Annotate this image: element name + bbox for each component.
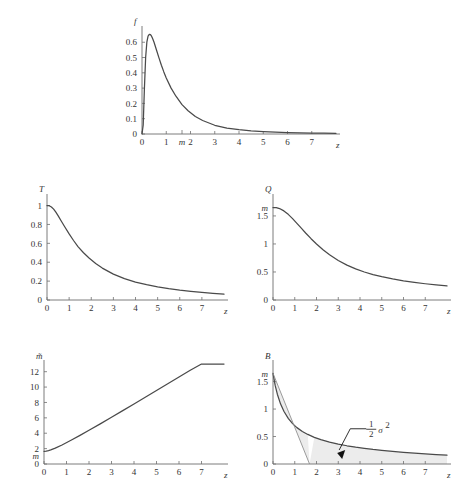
svg-text:6: 6	[401, 303, 406, 313]
axis-label-y-T: T	[39, 184, 45, 194]
tick-labels-f: 0123456700.10.20.30.40.50.6	[126, 37, 315, 147]
svg-text:0.6: 0.6	[31, 239, 43, 249]
curve-f	[142, 34, 336, 134]
svg-text:0.5: 0.5	[126, 53, 138, 63]
svg-text:4: 4	[358, 467, 363, 477]
svg-text:2: 2	[314, 303, 319, 313]
axis-label-x-B: z	[446, 470, 451, 480]
svg-text:5: 5	[154, 467, 159, 477]
axis-label-x-f: z	[335, 140, 340, 150]
svg-text:7: 7	[199, 467, 204, 477]
svg-text:0: 0	[264, 459, 269, 469]
svg-text:0.1: 0.1	[126, 114, 137, 124]
chart-panel-f: 0123456700.10.20.30.40.50.6 f z m	[108, 12, 348, 164]
tick-labels-T: 0123456700.20.40.60.81	[31, 201, 205, 313]
svg-text:8: 8	[35, 398, 40, 408]
svg-text:0.3: 0.3	[126, 83, 138, 93]
axis-label-y-f: f	[134, 16, 138, 26]
svg-text:0: 0	[271, 303, 276, 313]
ticks-Q	[273, 216, 425, 300]
svg-text:0.5: 0.5	[257, 267, 269, 277]
svg-text:2: 2	[369, 429, 374, 439]
svg-text:0.2: 0.2	[126, 99, 137, 109]
shaded-region-B	[273, 373, 447, 464]
svg-text:0: 0	[45, 303, 50, 313]
svg-text:6: 6	[401, 467, 406, 477]
svg-text:1: 1	[38, 201, 43, 211]
svg-text:2: 2	[87, 467, 92, 477]
svg-text:3: 3	[336, 303, 341, 313]
svg-text:1: 1	[67, 303, 72, 313]
annotation-m-B: m	[262, 369, 269, 379]
chart-Q-svg: 0123456700.511.5 Q z m	[243, 180, 458, 330]
svg-text:1: 1	[264, 404, 269, 414]
svg-text:1: 1	[293, 303, 298, 313]
figure-page: 0123456700.10.20.30.40.50.6 f z m 012345…	[0, 0, 459, 498]
svg-text:4: 4	[358, 303, 363, 313]
svg-text:1: 1	[64, 467, 69, 477]
svg-text:3: 3	[213, 137, 218, 147]
svg-text:4: 4	[35, 428, 40, 438]
svg-text:2: 2	[89, 303, 94, 313]
axis-label-x-Q: z	[446, 306, 451, 316]
svg-text:12: 12	[30, 367, 39, 377]
chart-mbar-svg: 01234567024681012 m̃ z m	[10, 348, 235, 494]
axis-label-y-mbar: m̃	[36, 351, 43, 361]
svg-text:0.4: 0.4	[126, 68, 138, 78]
svg-text:5: 5	[155, 303, 160, 313]
svg-text:7: 7	[423, 467, 428, 477]
svg-text:1: 1	[293, 467, 298, 477]
curve-T	[47, 206, 224, 295]
axis-label-x-mbar: z	[223, 470, 228, 480]
svg-text:2: 2	[188, 137, 193, 147]
svg-text:0.2: 0.2	[31, 276, 42, 286]
svg-text:0: 0	[271, 467, 276, 477]
axis-label-y-B: B	[265, 351, 271, 361]
svg-text:2: 2	[385, 420, 390, 430]
curve-mbar	[44, 364, 224, 451]
axis-label-x-T: z	[223, 306, 228, 316]
chart-panel-B: 0123456700.511.5 12σ2 B z m	[243, 348, 458, 494]
chart-panel-Q: 0123456700.511.5 Q z m	[243, 180, 458, 330]
curve-Q	[273, 208, 447, 286]
svg-text:0: 0	[38, 295, 43, 305]
svg-text:4: 4	[132, 467, 137, 477]
svg-text:σ: σ	[378, 425, 383, 435]
annotation-m-mbar: m	[33, 451, 40, 461]
svg-text:5: 5	[261, 137, 266, 147]
svg-text:0.5: 0.5	[257, 432, 269, 442]
chart-B-svg: 0123456700.511.5 12σ2 B z m	[243, 348, 458, 494]
svg-text:0: 0	[133, 129, 138, 139]
svg-text:5: 5	[380, 467, 385, 477]
annotation-m-f: m	[179, 137, 186, 147]
axes-mbar	[44, 360, 228, 464]
svg-text:4: 4	[237, 137, 242, 147]
svg-text:5: 5	[380, 303, 385, 313]
svg-text:6: 6	[285, 137, 290, 147]
svg-text:2: 2	[314, 467, 319, 477]
svg-text:0.8: 0.8	[31, 220, 43, 230]
svg-text:6: 6	[178, 303, 183, 313]
axes-T	[47, 194, 228, 300]
axis-label-y-Q: Q	[265, 184, 272, 194]
svg-text:3: 3	[336, 467, 341, 477]
svg-text:7: 7	[423, 303, 428, 313]
svg-text:4: 4	[133, 303, 138, 313]
chart-f-svg: 0123456700.10.20.30.40.50.6 f z m	[108, 12, 348, 164]
svg-text:6: 6	[177, 467, 182, 477]
svg-text:7: 7	[200, 303, 205, 313]
ticks-T	[47, 206, 202, 300]
axes-f	[142, 26, 340, 134]
chart-panel-mbar: 01234567024681012 m̃ z m	[10, 348, 235, 494]
svg-text:10: 10	[30, 382, 40, 392]
svg-text:7: 7	[310, 137, 315, 147]
svg-text:3: 3	[109, 467, 114, 477]
svg-text:1: 1	[164, 137, 169, 147]
svg-text:1: 1	[369, 419, 374, 429]
svg-text:6: 6	[35, 413, 40, 423]
chart-T-svg: 0123456700.20.40.60.81 T z	[10, 180, 235, 330]
svg-text:0.6: 0.6	[126, 37, 138, 47]
svg-text:1: 1	[264, 239, 269, 249]
svg-text:0: 0	[42, 467, 47, 477]
tick-labels-mbar: 01234567024681012	[30, 367, 204, 477]
